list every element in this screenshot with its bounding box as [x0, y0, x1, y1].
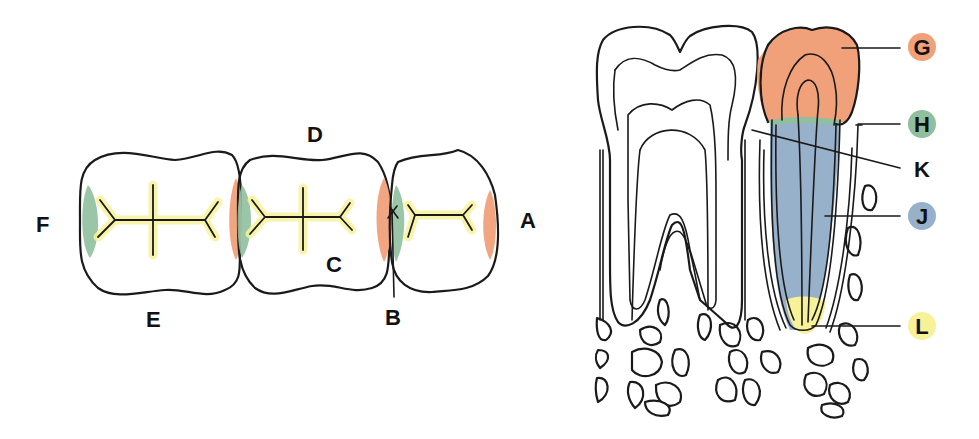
label-h-badge: H: [908, 110, 936, 138]
tooth-premolar-right: [388, 150, 498, 297]
fissure-pattern: [250, 188, 352, 250]
label-d: D: [307, 122, 323, 147]
fissure-pattern: [408, 205, 472, 237]
contact-area-orange: [483, 190, 496, 260]
label-a: A: [520, 208, 536, 233]
occlusal-view: F D C E B A: [36, 122, 536, 332]
label-k: K: [914, 157, 930, 182]
tooth-premolar-middle: [238, 153, 392, 293]
label-l: L: [915, 314, 928, 339]
label-g-badge: G: [908, 33, 936, 61]
fissure-pattern: [98, 185, 218, 255]
region-g: [757, 27, 859, 124]
label-c: C: [326, 252, 342, 277]
label-k-badge: K: [914, 157, 930, 182]
label-e: E: [146, 307, 161, 332]
cross-section-view: G H K J L: [596, 26, 936, 417]
label-g: G: [913, 35, 930, 60]
contact-area-green: [238, 185, 252, 258]
molar-cross-section: [597, 26, 758, 328]
dental-diagram: F D C E B A: [0, 0, 979, 439]
label-j: J: [916, 204, 928, 229]
label-h: H: [914, 112, 930, 137]
label-l-badge: L: [908, 312, 936, 340]
label-b: B: [385, 305, 401, 330]
label-f: F: [36, 212, 49, 237]
label-j-badge: J: [908, 202, 936, 230]
developing-tooth: [757, 27, 862, 334]
contact-area-green: [82, 185, 98, 258]
tooth-molar-left: [80, 152, 242, 295]
